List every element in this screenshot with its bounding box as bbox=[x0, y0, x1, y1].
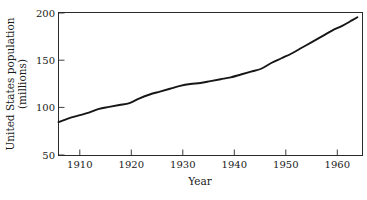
chart-canvas: 200 150 100 50 1910 1920 1930 1940 1950 … bbox=[0, 0, 367, 200]
x-tick-label-1960: 1960 bbox=[325, 159, 350, 170]
plot-frame bbox=[59, 13, 363, 156]
x-tick-label-1930: 1930 bbox=[170, 159, 195, 170]
population-chart-figure: 200 150 100 50 1910 1920 1930 1940 1950 … bbox=[0, 0, 367, 200]
y-tick-label-50: 50 bbox=[42, 150, 55, 161]
y-axis-title-line2: (millions) bbox=[16, 59, 28, 109]
y-axis-title-line1: United States population bbox=[4, 17, 16, 150]
x-axis-title: Year bbox=[187, 175, 212, 187]
population-line-series bbox=[59, 17, 358, 122]
y-tick-marks bbox=[59, 13, 65, 155]
y-tick-label-200: 200 bbox=[36, 8, 55, 19]
x-tick-label-1920: 1920 bbox=[119, 159, 144, 170]
x-tick-label-1950: 1950 bbox=[273, 159, 298, 170]
x-tick-marks bbox=[80, 150, 338, 156]
y-tick-label-100: 100 bbox=[36, 102, 55, 113]
x-tick-label-1940: 1940 bbox=[222, 159, 247, 170]
x-tick-label-1910: 1910 bbox=[67, 159, 92, 170]
y-tick-label-150: 150 bbox=[36, 55, 55, 66]
